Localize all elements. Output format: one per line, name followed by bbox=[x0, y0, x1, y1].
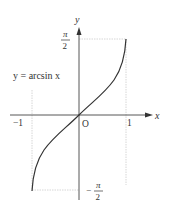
y-axis-arrow-icon bbox=[77, 27, 82, 35]
y-tick-pi-over-2: π 2 bbox=[61, 29, 70, 51]
x-axis-arrow-icon bbox=[145, 113, 153, 118]
arcsin-chart: y x O −1 1 π 2 − π 2 y = arcsin x bbox=[0, 0, 172, 215]
origin-label: O bbox=[82, 119, 89, 129]
y-tick-neg-pi-over-2: − π 2 bbox=[86, 180, 103, 202]
y-tick-negpi2-den: 2 bbox=[96, 192, 101, 202]
function-label: y = arcsin x bbox=[13, 70, 60, 81]
y-tick-pi2-den: 2 bbox=[63, 41, 68, 51]
y-tick-negpi2-sign: − bbox=[86, 185, 91, 195]
x-axis-label: x bbox=[154, 110, 160, 121]
axes bbox=[10, 32, 148, 200]
x-tick-1: 1 bbox=[127, 118, 132, 128]
y-tick-negpi2-num: π bbox=[96, 180, 101, 190]
y-tick-pi2-num: π bbox=[63, 29, 68, 39]
y-axis-label: y bbox=[74, 14, 80, 25]
x-tick-neg1: −1 bbox=[13, 118, 23, 128]
